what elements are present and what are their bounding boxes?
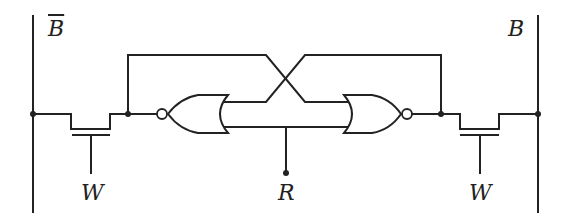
nor-gate-left (168, 95, 228, 133)
right-transistor-channel (441, 114, 538, 129)
junction-left-node (125, 111, 131, 117)
feedback-left-to-right (128, 55, 350, 114)
junction-right-bitline (535, 111, 541, 117)
reset-label: R (278, 182, 295, 204)
bitline-label: B (508, 18, 524, 40)
junction-right-node (438, 111, 444, 117)
feedback-right-to-left (222, 55, 441, 114)
sram-cell-diagram: B B W W R (0, 0, 565, 220)
reset-terminal (283, 170, 289, 176)
right-inversion-bubble (402, 109, 412, 119)
word-line-left-label: W (81, 182, 104, 204)
nor-gate-right (344, 95, 401, 133)
junction-left-bitline (30, 111, 36, 117)
left-inversion-bubble (157, 109, 167, 119)
word-line-right-label: W (469, 182, 492, 204)
bitline-bar-label: B (48, 18, 64, 40)
left-transistor-channel (33, 114, 128, 129)
